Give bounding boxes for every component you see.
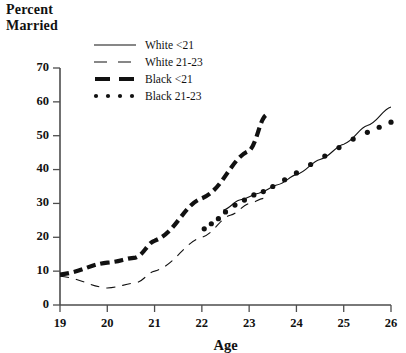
y-axis-tick-label: 60: [37, 94, 50, 108]
chart-series-black-21-23: [202, 120, 394, 232]
chart-data-point: [351, 137, 356, 142]
chart-data-point: [202, 226, 207, 231]
chart-series-white-21: [223, 107, 391, 210]
x-axis-tick-label: 21: [148, 316, 161, 330]
chart-data-point: [282, 177, 287, 182]
x-axis-title: Age: [213, 337, 238, 353]
chart-plot-area: 0102030405060701920212223242526Age: [0, 0, 406, 353]
x-axis-tick-label: 24: [290, 316, 303, 330]
chart-data-point: [308, 162, 313, 167]
y-axis-tick-label: 10: [37, 263, 50, 277]
chart-data-point: [242, 197, 247, 202]
y-axis-tick-label: 30: [37, 195, 50, 209]
chart-data-point: [322, 153, 327, 158]
chart-data-point: [365, 130, 370, 135]
chart-data-point: [216, 216, 221, 221]
x-axis-tick-label: 26: [385, 316, 398, 330]
y-axis-tick-label: 50: [37, 128, 50, 142]
chart-data-point: [336, 145, 341, 150]
y-axis-tick-label: 20: [37, 229, 50, 243]
chart-series-black-21: [60, 115, 266, 274]
chart-series-layer: [60, 107, 394, 288]
chart-data-point: [261, 189, 266, 194]
chart-data-point: [270, 184, 275, 189]
x-axis-tick-label: 20: [101, 316, 114, 330]
chart-data-point: [209, 221, 214, 226]
chart-data-point: [232, 203, 237, 208]
chart-data-point: [377, 125, 382, 130]
x-axis-tick-label: 25: [337, 316, 350, 330]
x-axis-tick-label: 23: [243, 316, 256, 330]
x-axis-tick-label: 22: [196, 316, 209, 330]
chart-data-point: [251, 192, 256, 197]
y-axis-tick-label: 0: [43, 297, 49, 311]
chart-series-white-21-23: [60, 198, 263, 288]
chart-container: Percent Married White <21 White 21-23 Bl…: [0, 0, 406, 353]
chart-data-point: [223, 209, 228, 214]
y-axis-tick-label: 70: [37, 60, 50, 74]
chart-data-point: [388, 120, 393, 125]
x-axis-tick-label: 19: [54, 316, 67, 330]
chart-data-point: [294, 170, 299, 175]
y-axis-tick-label: 40: [37, 161, 50, 175]
chart-axes: [53, 68, 391, 312]
